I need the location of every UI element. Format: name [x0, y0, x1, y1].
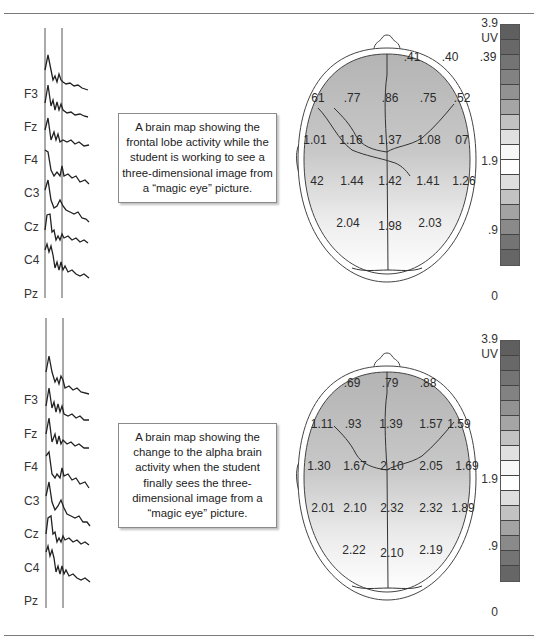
- channel-label-c3: C3: [24, 494, 39, 508]
- channel-label-cz: Cz: [24, 527, 39, 541]
- electrode-value: 1.11: [311, 417, 333, 431]
- electrode-value: 1.08: [417, 133, 440, 147]
- electrode-value: 61: [311, 91, 324, 105]
- electrode-value: .41: [404, 50, 421, 64]
- brain-map: .41 .40 .39 61 .77 .86 .75 .52 1.01 1.16…: [292, 0, 482, 318]
- electrode-value: 1.42: [378, 174, 401, 188]
- scale-unit-label: UV: [468, 347, 498, 361]
- channel-label-cz: Cz: [24, 220, 39, 234]
- electrode-value: 1.69: [455, 459, 478, 473]
- electrode-value: 2.32: [419, 501, 442, 515]
- brain-map: .69 .79 .88 1.11 .93 1.39 1.57 1.59 1.30…: [292, 318, 482, 636]
- scale-low-label: .9: [468, 223, 498, 237]
- panel-alpha-activity: F3 Fz F4 C3 Cz C4 Pz A brain map showing…: [0, 318, 538, 636]
- head-outline: [292, 318, 482, 636]
- scale-low-label: .9: [468, 539, 498, 553]
- channel-label-fz: Fz: [24, 427, 37, 441]
- electrode-value: 2.19: [419, 543, 442, 557]
- electrode-value: 2.22: [342, 543, 365, 557]
- scale-mid-label: 1.9: [468, 154, 498, 168]
- electrode-value: 2.32: [380, 501, 403, 515]
- channel-label-c3: C3: [24, 186, 39, 200]
- caption-box: A brain map showing the frontal lobe act…: [118, 113, 277, 203]
- electrode-value: 2.04: [336, 216, 359, 230]
- channel-label-f3: F3: [24, 87, 38, 101]
- scale-max-label: 3.9: [468, 16, 498, 30]
- electrode-value: 1.39: [379, 417, 402, 431]
- electrode-value: 1.16: [339, 133, 362, 147]
- electrode-value: .69: [344, 376, 361, 390]
- scale-min-label: 0: [468, 605, 498, 619]
- electrode-value: 42: [310, 174, 323, 188]
- scale-min-label: 0: [468, 289, 498, 303]
- electrode-value: .39: [480, 50, 497, 64]
- electrode-value: .79: [382, 376, 399, 390]
- electrode-value: 2.05: [419, 459, 442, 473]
- panel-frontal-activity: F3 Fz F4 C3 Cz C4 Pz A brain map showing…: [0, 0, 538, 318]
- electrode-value: 1.67: [343, 459, 366, 473]
- electrode-value: .40: [442, 50, 459, 64]
- electrode-value: .86: [382, 91, 399, 105]
- caption-box: A brain map showing the change to the al…: [118, 423, 277, 528]
- channel-label-pz: Pz: [24, 287, 38, 301]
- electrode-value: 07: [455, 133, 468, 147]
- electrode-value: 2.10: [343, 501, 366, 515]
- color-scale-bar: [500, 24, 520, 266]
- electrode-value: 1.57: [419, 417, 442, 431]
- channel-label-fz: Fz: [24, 120, 37, 134]
- scale-mid-label: 1.9: [468, 472, 498, 486]
- channel-label-c4: C4: [24, 253, 39, 267]
- color-scale-bar: [500, 340, 520, 582]
- channel-label-pz: Pz: [24, 594, 38, 608]
- channel-label-f3: F3: [24, 393, 38, 407]
- electrode-value: 1.37: [378, 133, 401, 147]
- electrode-value: .52: [454, 91, 471, 105]
- electrode-value: 1.89: [451, 501, 474, 515]
- electrode-value: 2.01: [311, 501, 334, 515]
- channel-label-f4: F4: [24, 153, 38, 167]
- electrode-value: .77: [344, 91, 361, 105]
- electrode-value: 1.26: [452, 174, 475, 188]
- head-outline: [292, 0, 482, 318]
- scale-max-label: 3.9: [468, 332, 498, 346]
- electrode-value: 1.30: [307, 459, 330, 473]
- channel-label-c4: C4: [24, 561, 39, 575]
- electrode-value: 2.10: [380, 546, 403, 560]
- eeg-traces: [0, 0, 110, 318]
- electrode-value: .93: [345, 417, 362, 431]
- electrode-value: 1.01: [303, 133, 326, 147]
- electrode-value: 1.41: [416, 174, 439, 188]
- bottom-rule: [4, 635, 534, 636]
- eeg-traces: [0, 318, 110, 636]
- electrode-value: .88: [420, 376, 437, 390]
- electrode-value: 1.98: [378, 219, 401, 233]
- channel-label-f4: F4: [24, 460, 38, 474]
- electrode-value: .75: [420, 91, 437, 105]
- electrode-value: 2.03: [418, 216, 441, 230]
- electrode-value: 2.10: [380, 459, 403, 473]
- electrode-value: 1.59: [447, 417, 470, 431]
- scale-unit-label: UV: [468, 31, 498, 45]
- electrode-value: 1.44: [340, 174, 363, 188]
